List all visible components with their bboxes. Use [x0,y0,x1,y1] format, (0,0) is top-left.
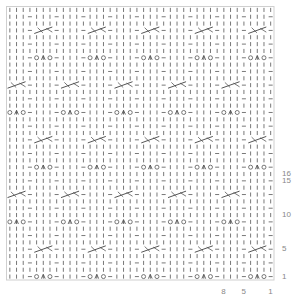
yarn-over-symbol [8,220,12,224]
yarn-over-symbol [235,110,239,114]
yarn-over-symbol [142,165,146,169]
yarn-over-symbol [35,165,39,169]
yarn-over-symbol [142,275,146,279]
column-label: 8 [221,288,225,296]
yarn-over-symbol [48,165,52,169]
cable-cross-tail [153,28,159,32]
yarn-over-symbol [235,220,239,224]
yarn-over-symbol [195,165,199,169]
cable-cross-tail [127,83,133,87]
row-label: 10 [282,211,291,219]
cable-cross-tail [234,83,240,87]
yarn-over-symbol [208,165,212,169]
yarn-over-symbol [155,275,159,279]
cable-cross-tail [180,83,186,87]
row-label: 5 [282,245,286,253]
row-label: 15 [282,177,291,185]
row-label: 16 [282,170,291,178]
yarn-over-symbol [21,220,25,224]
yarn-over-symbol [182,110,186,114]
yarn-over-symbol [35,56,39,60]
yarn-over-symbol [155,56,159,60]
yarn-over-symbol [48,56,52,60]
cable-cross-tail [153,247,159,251]
yarn-over-symbol [88,56,92,60]
cable-cross-tail [260,138,266,142]
yarn-over-symbol [155,165,159,169]
cable-cross-tail [260,28,266,32]
yarn-over-symbol [48,275,52,279]
yarn-over-symbol [195,275,199,279]
cable-cross-tail [234,192,240,196]
cable-cross-tail [20,83,26,87]
yarn-over-symbol [115,220,119,224]
cable-cross-tail [207,247,213,251]
cable-cross-tail [20,192,26,196]
yarn-over-symbol [222,110,226,114]
yarn-over-symbol [249,165,253,169]
yarn-over-symbol [75,220,79,224]
cable-cross-tail [153,138,159,142]
yarn-over-symbol [249,275,253,279]
cable-cross-tail [100,138,106,142]
yarn-over-symbol [8,110,12,114]
yarn-over-symbol [262,56,266,60]
yarn-over-symbol [75,110,79,114]
yarn-over-symbol [208,56,212,60]
yarn-over-symbol [128,220,132,224]
cable-cross-tail [46,28,52,32]
cable-cross-tail [100,28,106,32]
yarn-over-symbol [88,165,92,169]
column-label: 5 [241,288,245,296]
cable-cross-tail [260,247,266,251]
cable-cross-tail [73,192,79,196]
yarn-over-symbol [249,56,253,60]
yarn-over-symbol [168,110,172,114]
yarn-over-symbol [168,220,172,224]
yarn-over-symbol [21,110,25,114]
cable-cross-tail [180,192,186,196]
cable-cross-tail [100,247,106,251]
yarn-over-symbol [128,110,132,114]
cable-cross-tail [207,28,213,32]
knitting-chart [0,0,298,297]
yarn-over-symbol [101,56,105,60]
yarn-over-symbol [101,275,105,279]
yarn-over-symbol [262,275,266,279]
yarn-over-symbol [101,165,105,169]
yarn-over-symbol [222,220,226,224]
yarn-over-symbol [35,275,39,279]
cable-cross-tail [207,138,213,142]
yarn-over-symbol [61,110,65,114]
chart-border [7,7,275,281]
cable-cross-tail [73,83,79,87]
row-label: 1 [282,273,286,281]
yarn-over-symbol [195,56,199,60]
cable-cross-tail [46,247,52,251]
yarn-over-symbol [88,275,92,279]
yarn-over-symbol [262,165,266,169]
yarn-over-symbol [208,275,212,279]
column-label: 1 [268,288,272,296]
yarn-over-symbol [61,220,65,224]
cable-cross-tail [127,192,133,196]
yarn-over-symbol [115,110,119,114]
yarn-over-symbol [142,56,146,60]
cable-cross-tail [46,138,52,142]
yarn-over-symbol [182,220,186,224]
